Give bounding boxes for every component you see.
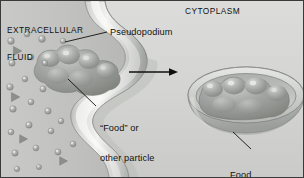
sphere-particle-icon: [26, 122, 32, 128]
extracellular-fluid-label-line2: FLUID: [7, 53, 83, 62]
food-particle-callout: “Food” or other particle: [100, 102, 155, 178]
food-vacuole-callout: Food vacuole: [230, 149, 262, 178]
sphere-particle-highlight: [34, 146, 36, 148]
sphere-particle-highlight: [15, 167, 17, 169]
food-particle-callout-line2: other particle: [100, 153, 155, 163]
sphere-particle-icon: [55, 149, 61, 155]
sphere-particle-highlight: [13, 151, 15, 153]
pseudopodium-callout: Pseudopodium: [110, 27, 173, 37]
sphere-particle-icon: [40, 86, 46, 92]
sphere-particle-icon: [7, 84, 14, 91]
diagram-figure: EXTRACELLULAR FLUID CYTOPLASM Pseudopodi…: [0, 0, 304, 178]
sphere-particle-icon: [12, 150, 18, 156]
sphere-particle-highlight: [8, 85, 10, 87]
sphere-particle-icon: [45, 108, 51, 114]
cytoplasm-label: CYTOPLASM: [185, 7, 240, 16]
sphere-particle-icon: [33, 145, 39, 151]
sphere-particle-icon: [14, 166, 20, 172]
sphere-particle-highlight: [59, 119, 61, 121]
sphere-particle-highlight: [27, 123, 29, 125]
sphere-particle-highlight: [41, 87, 43, 89]
sphere-particle-highlight: [11, 107, 13, 109]
food-particle-callout-line1: “Food” or: [100, 123, 155, 133]
sphere-particle-icon: [58, 118, 64, 124]
sphere-particle-highlight: [71, 142, 73, 144]
extracellular-fluid-label-line1: EXTRACELLULAR: [7, 26, 83, 35]
sphere-particle-highlight: [9, 130, 11, 132]
sphere-particle-icon: [8, 129, 14, 135]
sphere-particle-highlight: [56, 150, 58, 152]
sphere-particle-highlight: [37, 165, 39, 167]
sphere-particle-icon: [48, 128, 54, 134]
extracellular-fluid-label: EXTRACELLULAR FLUID: [7, 7, 83, 81]
sphere-particle-icon: [10, 106, 17, 113]
sphere-particle-icon: [36, 164, 41, 169]
sphere-particle-highlight: [46, 109, 48, 111]
sphere-particle-highlight: [29, 100, 31, 102]
sphere-particle-icon: [70, 141, 76, 147]
sphere-particle-highlight: [49, 129, 51, 131]
food-vacuole-callout-line1: Food: [230, 170, 262, 178]
sphere-particle-icon: [28, 99, 34, 105]
